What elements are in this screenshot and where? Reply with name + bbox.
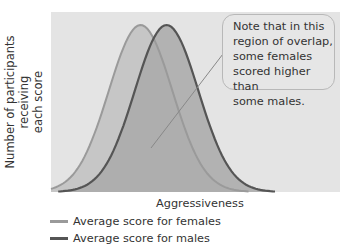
legend-swatch-males (50, 237, 68, 240)
legend-swatch-females (50, 220, 68, 223)
x-axis-label: Aggressiveness (156, 197, 244, 210)
legend: Average score for females Average score … (50, 213, 221, 247)
legend-item-females: Average score for females (50, 213, 221, 230)
legend-item-males: Average score for males (50, 230, 221, 247)
overlap-callout: Note that in this region of overlap, som… (222, 14, 335, 90)
legend-label-males: Average score for males (73, 232, 210, 245)
legend-label-females: Average score for females (73, 215, 221, 228)
